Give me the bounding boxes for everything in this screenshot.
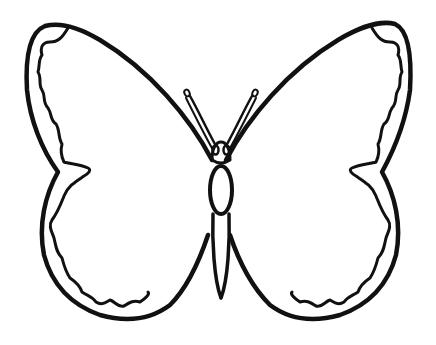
butterfly-illustration: butterfly line-art coloring outline xyxy=(0,0,436,345)
right-antenna-inner xyxy=(229,98,256,150)
butterfly-thorax xyxy=(210,166,232,214)
butterfly-abdomen xyxy=(213,214,229,298)
right-wing-outer-outline xyxy=(226,23,410,319)
butterfly-svg xyxy=(0,0,436,345)
left-antenna xyxy=(190,96,216,146)
left-wing-outer-outline xyxy=(27,25,212,319)
left-antenna-tip xyxy=(183,89,190,97)
right-antenna-tip xyxy=(251,89,258,97)
